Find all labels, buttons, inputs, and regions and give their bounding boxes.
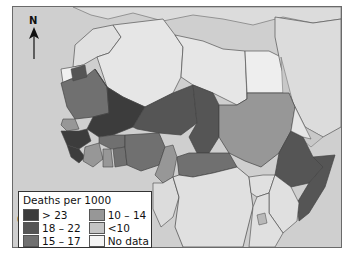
legend-label: > 23: [42, 209, 68, 221]
legend-label: 10 – 14: [108, 209, 147, 221]
legend-swatch: [23, 209, 39, 221]
country-ghana: [103, 149, 113, 167]
legend-label: No data: [108, 235, 149, 247]
legend-column-left: > 23 18 – 22 15 – 17: [23, 208, 81, 247]
north-arrow: N: [27, 17, 41, 61]
legend-swatch: [23, 235, 39, 247]
north-label: N: [29, 15, 37, 26]
legend-item: > 23: [23, 208, 81, 221]
country-rwanda-burundi: [257, 213, 267, 225]
legend-item: 15 – 17: [23, 234, 81, 247]
legend-label: <10: [108, 222, 130, 234]
legend-column-right: 10 – 14 <10 No data: [89, 208, 149, 247]
country-drc: [173, 167, 253, 247]
legend-swatch: [89, 209, 105, 221]
country-togo-benin: [113, 147, 127, 167]
legend-label: 18 – 22: [42, 222, 81, 234]
legend-title: Deaths per 1000: [23, 194, 147, 207]
legend-swatch: [89, 222, 105, 234]
legend-item: <10: [89, 221, 149, 234]
legend-item: 10 – 14: [89, 208, 149, 221]
legend-item: 18 – 22: [23, 221, 81, 234]
legend-item: No data: [89, 234, 149, 247]
legend-swatch: [89, 235, 105, 247]
legend-label: 15 – 17: [42, 235, 81, 247]
legend: Deaths per 1000 > 23 18 – 22 15 – 17 10 …: [18, 191, 152, 248]
legend-swatch: [23, 222, 39, 234]
